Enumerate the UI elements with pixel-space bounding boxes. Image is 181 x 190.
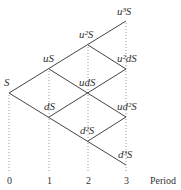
period-tick-1: 1 xyxy=(47,175,52,186)
node-u2S: u²S xyxy=(79,28,94,40)
period-tick-3: 3 xyxy=(124,175,129,186)
node-S: S xyxy=(4,76,10,88)
node-dS: dS xyxy=(44,100,56,112)
node-udS: udS xyxy=(79,76,96,88)
period-axis-label: Period xyxy=(150,175,176,186)
node-uS: uS xyxy=(43,52,55,64)
node-u3S: u³S xyxy=(117,5,132,17)
period-tick-2: 2 xyxy=(86,175,91,186)
node-d3S: d³S xyxy=(118,148,133,160)
period-tick-0: 0 xyxy=(7,175,12,186)
tree-edges xyxy=(9,21,126,165)
binomial-tree-diagram: S uS dS u²S udS d²S u³S u²dS ud²S d³S 0 … xyxy=(0,0,181,190)
node-ud2S: ud²S xyxy=(117,100,137,112)
node-d2S: d²S xyxy=(80,124,95,136)
node-u2dS: u²dS xyxy=(117,52,137,64)
